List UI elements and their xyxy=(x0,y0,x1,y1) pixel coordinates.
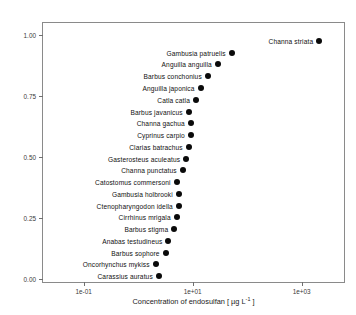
data-point-label: Gambusia holbrooki xyxy=(112,190,173,197)
data-point xyxy=(198,85,204,91)
x-tick-label: 1e+01 xyxy=(184,288,202,295)
data-point-label: Anguilla japonica xyxy=(142,85,194,92)
y-tick-label: 0.75 xyxy=(24,93,36,100)
data-point-label: Cyprinus carpio xyxy=(137,132,185,139)
data-point-label: Ctenopharyngodon idella xyxy=(97,202,173,209)
x-axis-label-text: Concentration of endosulfan [ µg L xyxy=(132,297,245,306)
x-tick-label: 1e-01 xyxy=(75,288,91,295)
x-tick-mark xyxy=(193,282,194,286)
data-point xyxy=(205,73,211,79)
data-point xyxy=(229,50,235,56)
x-axis-label: Concentration of endosulfan [ µg L-1 ] xyxy=(42,296,345,306)
y-tick-label: 1.00 xyxy=(24,32,36,39)
x-tick-label: 1e+03 xyxy=(293,288,311,295)
data-point xyxy=(165,238,171,244)
data-point xyxy=(176,203,182,209)
data-point xyxy=(215,61,221,67)
data-point xyxy=(316,38,322,44)
y-tick-label: 0.00 xyxy=(24,276,36,283)
data-point-label: Gambusia patruelis xyxy=(166,49,225,56)
data-point-label: Cirrhinus mrigala xyxy=(119,214,171,221)
x-tick-mark xyxy=(302,282,303,286)
data-point xyxy=(171,226,177,232)
data-point-label: Anguilla anguilla xyxy=(162,61,212,68)
data-point-label: Anabas testudineus xyxy=(102,238,162,245)
data-points-layer: Carassius auratusOncorhynchus mykissBarb… xyxy=(43,23,344,282)
data-point xyxy=(180,167,186,173)
data-point-label: Oncorhynchus mykiss xyxy=(83,261,150,268)
data-point xyxy=(183,156,189,162)
y-tick-label: 0.25 xyxy=(24,215,36,222)
data-point xyxy=(176,191,182,197)
data-point-label: Barbus conchonius xyxy=(144,73,202,80)
data-point xyxy=(188,132,194,138)
data-point xyxy=(174,179,180,185)
data-point xyxy=(163,250,169,256)
data-point xyxy=(174,214,180,220)
data-point xyxy=(156,273,162,279)
x-axis-label-suffix: ] xyxy=(250,297,254,306)
data-point xyxy=(153,261,159,267)
ssd-scatter-figure: Fraction of species affected 0.000.250.5… xyxy=(0,0,356,315)
x-tick-mark xyxy=(84,282,85,286)
data-point-label: Barbus javanicus xyxy=(130,108,182,115)
data-point xyxy=(186,109,192,115)
data-point xyxy=(188,120,194,126)
data-point-label: Clarias batrachus xyxy=(129,143,183,150)
data-point-label: Catla catla xyxy=(157,96,190,103)
data-point-label: Channa gachua xyxy=(137,120,185,127)
data-point-label: Catostomus commersoni xyxy=(95,179,171,186)
data-point-label: Channa striata xyxy=(269,38,314,45)
plot-panel: 0.000.250.500.751.00 1e-011e+011e+03 Car… xyxy=(42,22,345,283)
data-point-label: Gasterosteus aculeatus xyxy=(108,155,180,162)
y-tick-label: 0.50 xyxy=(24,154,36,161)
data-point-label: Carassius auratus xyxy=(97,273,152,280)
data-point xyxy=(186,144,192,150)
data-point-label: Barbus stigma xyxy=(124,226,168,233)
data-point xyxy=(193,97,199,103)
data-point-label: Barbus sophore xyxy=(111,249,159,256)
data-point-label: Channa punctatus xyxy=(121,167,177,174)
